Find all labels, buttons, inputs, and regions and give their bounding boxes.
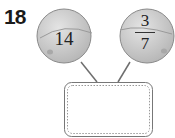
answer-box[interactable] [65,83,153,137]
fraction-bar [135,32,155,33]
fraction-denominator: 7 [141,34,150,53]
balloon-right-fraction: 3 7 [130,12,160,53]
fraction-numerator: 3 [141,11,150,30]
balloon-left-value: 14 [44,28,84,50]
